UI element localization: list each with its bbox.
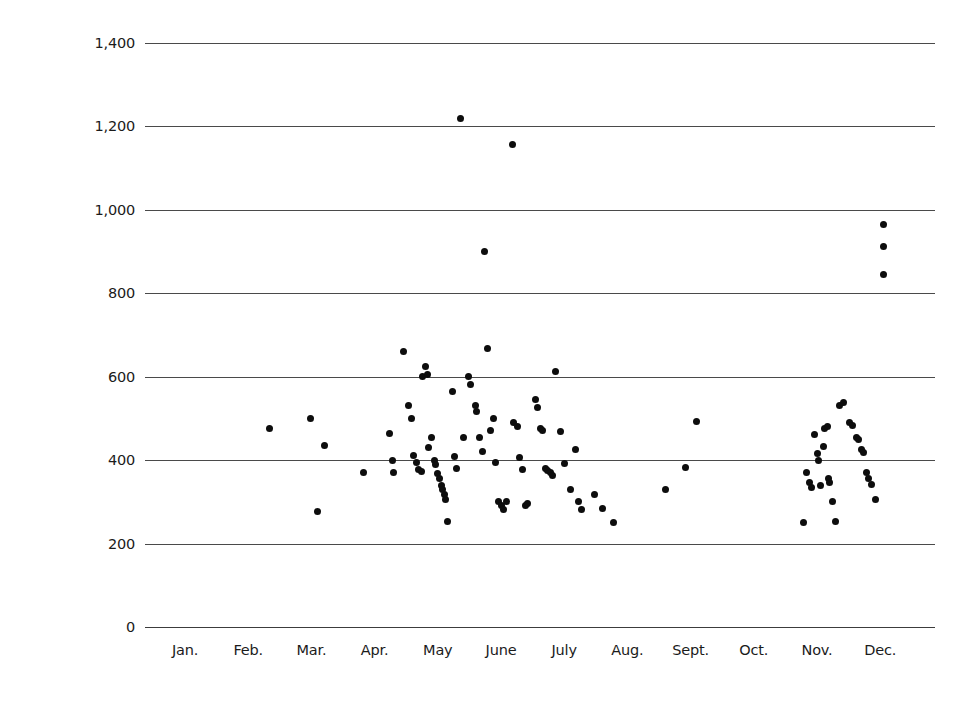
data-point xyxy=(599,505,606,512)
plot-area: 02004006008001,0001,2001,400Jan.Feb.Mar.… xyxy=(0,0,969,702)
data-point xyxy=(514,423,521,430)
gridline-200 xyxy=(145,544,935,545)
data-point xyxy=(509,141,516,148)
data-point xyxy=(832,518,839,525)
data-point xyxy=(460,434,467,441)
data-point xyxy=(552,368,559,375)
data-point xyxy=(855,436,862,443)
data-point xyxy=(465,373,472,380)
data-point xyxy=(826,479,833,486)
y-axis-tick-label: 200 xyxy=(55,536,135,552)
x-axis-tick-label: July xyxy=(528,642,600,658)
x-axis-tick-label: Apr. xyxy=(339,642,411,658)
data-point xyxy=(610,519,617,526)
data-point xyxy=(473,408,480,415)
data-point xyxy=(868,481,875,488)
data-point xyxy=(567,486,574,493)
data-point xyxy=(307,415,314,422)
data-point xyxy=(829,498,836,505)
data-point xyxy=(561,460,568,467)
data-point xyxy=(800,519,807,526)
data-point xyxy=(484,345,491,352)
data-point xyxy=(425,444,432,451)
data-point xyxy=(840,399,847,406)
data-point xyxy=(557,428,564,435)
y-axis-tick-label: 400 xyxy=(55,452,135,468)
scatter-chart: Box office revenues adjusted for inflati… xyxy=(0,0,969,702)
x-axis-line xyxy=(145,627,935,628)
data-point xyxy=(314,508,321,515)
data-point xyxy=(500,506,507,513)
y-axis-tick-label: 1,200 xyxy=(55,118,135,134)
data-point xyxy=(453,465,460,472)
data-point xyxy=(389,457,396,464)
data-point xyxy=(487,427,494,434)
data-point xyxy=(539,427,546,434)
data-point xyxy=(534,404,541,411)
data-point xyxy=(811,431,818,438)
gridline-1200 xyxy=(145,126,935,127)
data-point xyxy=(479,448,486,455)
x-axis-tick-label: May xyxy=(402,642,474,658)
data-point xyxy=(880,221,887,228)
gridline-1400 xyxy=(145,43,935,44)
data-point xyxy=(428,434,435,441)
data-point xyxy=(400,348,407,355)
data-point xyxy=(880,243,887,250)
data-point xyxy=(682,464,689,471)
y-axis-tick-label: 1,000 xyxy=(55,202,135,218)
data-point xyxy=(872,496,879,503)
data-point xyxy=(803,469,810,476)
data-point xyxy=(476,434,483,441)
data-point xyxy=(413,459,420,466)
data-point xyxy=(817,482,824,489)
data-point xyxy=(405,402,412,409)
x-axis-tick-label: Nov. xyxy=(781,642,853,658)
y-axis-tick-label: 1,400 xyxy=(55,35,135,51)
data-point xyxy=(572,446,579,453)
data-point xyxy=(481,248,488,255)
gridline-600 xyxy=(145,377,935,378)
x-axis-tick-label: June xyxy=(465,642,537,658)
data-point xyxy=(849,422,856,429)
y-axis-tick-label: 0 xyxy=(55,619,135,635)
data-point xyxy=(524,500,531,507)
data-point xyxy=(408,415,415,422)
gridline-1000 xyxy=(145,210,935,211)
data-point xyxy=(820,443,827,450)
data-point xyxy=(815,457,822,464)
data-point xyxy=(880,271,887,278)
x-axis-tick-label: Feb. xyxy=(212,642,284,658)
data-point xyxy=(266,425,273,432)
data-point xyxy=(532,396,539,403)
data-point xyxy=(578,506,585,513)
x-axis-tick-label: Aug. xyxy=(591,642,663,658)
data-point xyxy=(860,449,867,456)
data-point xyxy=(360,469,367,476)
data-point xyxy=(519,466,526,473)
data-point xyxy=(575,498,582,505)
data-point xyxy=(662,486,669,493)
data-point xyxy=(503,498,510,505)
data-point xyxy=(386,430,393,437)
data-point xyxy=(442,496,449,503)
x-axis-tick-label: Jan. xyxy=(149,642,221,658)
data-point xyxy=(457,115,464,122)
data-point xyxy=(422,363,429,370)
y-axis-tick-label: 600 xyxy=(55,369,135,385)
data-point xyxy=(693,418,700,425)
x-axis-tick-label: Sept. xyxy=(655,642,727,658)
data-point xyxy=(492,459,499,466)
data-point xyxy=(418,468,425,475)
data-point xyxy=(390,469,397,476)
data-point xyxy=(467,381,474,388)
x-axis-tick-label: Mar. xyxy=(275,642,347,658)
x-axis-tick-label: Oct. xyxy=(718,642,790,658)
data-point xyxy=(824,423,831,430)
y-axis-tick-label: 800 xyxy=(55,285,135,301)
gridline-800 xyxy=(145,293,935,294)
data-point xyxy=(321,442,328,449)
data-point xyxy=(549,472,556,479)
data-point xyxy=(432,461,439,468)
x-axis-tick-label: Dec. xyxy=(844,642,916,658)
